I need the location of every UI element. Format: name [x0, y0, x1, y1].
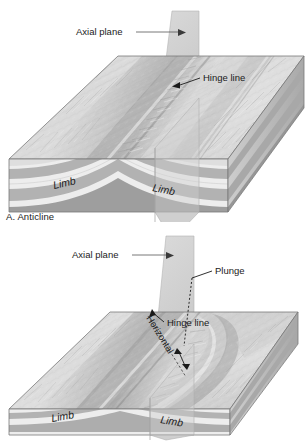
panel-anticline: Axial plane Hinge line Limb Limb A. Anti…: [0, 0, 306, 222]
panel-a-caption: A. Anticline: [6, 211, 54, 222]
geology-figure: Axial plane Hinge line Limb Limb A. Anti…: [0, 0, 306, 444]
plunging-anticline-block-diagram: Axial plane Horizontal Plunge Hinge lin: [0, 222, 306, 444]
panel-plunging-anticline: Axial plane Horizontal Plunge Hinge lin: [0, 222, 306, 444]
hinge-line-label-a: Hinge line: [203, 72, 245, 83]
plunge-label-b: Plunge: [215, 265, 245, 276]
hinge-line-label-b-text: Hinge line: [167, 317, 209, 328]
label-axial-plane-b: Axial plane: [72, 249, 174, 260]
anticline-block-diagram: Axial plane Hinge line Limb Limb: [0, 0, 306, 222]
axial-plane-label-a: Axial plane: [76, 26, 122, 37]
axial-plane-label-b: Axial plane: [72, 249, 118, 260]
